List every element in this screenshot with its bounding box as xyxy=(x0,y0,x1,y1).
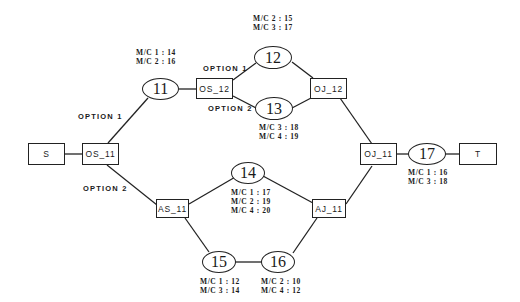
node-11-machines: M/C 1 : 14 M/C 2 : 16 xyxy=(136,48,176,66)
node-11: 11 xyxy=(142,78,179,100)
node-11-label: 11 xyxy=(153,80,168,98)
node-12-label: 12 xyxy=(265,49,281,67)
node-15-label: 15 xyxy=(211,253,227,271)
machine-time: M/C 1 : 14 xyxy=(136,48,176,57)
machine-time: M/C 1 : 12 xyxy=(200,277,240,286)
os-12-option-1-label: OPTION 1 xyxy=(203,64,248,73)
machine-time: M/C 3 : 17 xyxy=(253,23,293,32)
node-12: 12 xyxy=(254,46,292,69)
source-label: S xyxy=(43,149,49,159)
machine-time: M/C 1 : 16 xyxy=(408,168,448,177)
node-16-label: 16 xyxy=(270,253,286,271)
machine-time: M/C 4 : 12 xyxy=(261,286,301,295)
node-12-machines: M/C 2 : 15 M/C 3 : 17 xyxy=(253,14,293,32)
machine-time: M/C 3 : 18 xyxy=(408,177,448,186)
os-11-option-2-label: OPTION 2 xyxy=(83,184,128,193)
machine-time: M/C 2 : 15 xyxy=(253,14,293,23)
node-15: 15 xyxy=(202,251,236,273)
node-16-machines: M/C 2 : 10 M/C 4 : 12 xyxy=(261,277,301,295)
machine-time: M/C 3 : 18 xyxy=(259,123,299,132)
node-13: 13 xyxy=(255,97,293,120)
node-15-machines: M/C 1 : 12 M/C 3 : 14 xyxy=(200,277,240,295)
machine-time: M/C 4 : 19 xyxy=(259,132,299,141)
as-11-label: AS_11 xyxy=(158,204,187,214)
node-14-label: 14 xyxy=(240,164,256,182)
machine-time: M/C 4 : 20 xyxy=(231,206,271,215)
machine-time: M/C 3 : 14 xyxy=(200,286,240,295)
machine-time: M/C 2 : 19 xyxy=(231,197,271,206)
os-12-option-2-label: OPTION 2 xyxy=(208,104,253,113)
node-17-machines: M/C 1 : 16 M/C 3 : 18 xyxy=(408,168,448,186)
os-11-box: OS_11 xyxy=(82,143,119,165)
oj-12-box: OJ_12 xyxy=(310,78,347,99)
node-14: 14 xyxy=(231,162,265,184)
source-box: S xyxy=(28,143,65,165)
oj-11-box: OJ_11 xyxy=(360,143,397,165)
os-11-option-1-label: OPTION 1 xyxy=(78,112,123,121)
os-12-label: OS_12 xyxy=(199,84,229,94)
machine-time: M/C 1 : 17 xyxy=(231,188,271,197)
sink-label: T xyxy=(475,149,481,159)
aj-11-box: AJ_11 xyxy=(312,199,346,218)
sink-box: T xyxy=(459,143,497,165)
machine-time: M/C 2 : 10 xyxy=(261,277,301,286)
as-11-box: AS_11 xyxy=(156,199,189,218)
node-17-label: 17 xyxy=(419,145,435,163)
aj-11-label: AJ_11 xyxy=(315,204,342,214)
node-13-machines: M/C 3 : 18 M/C 4 : 19 xyxy=(259,123,299,141)
oj-11-label: OJ_11 xyxy=(364,149,392,159)
node-14-machines: M/C 1 : 17 M/C 2 : 19 M/C 4 : 20 xyxy=(231,188,271,215)
node-16: 16 xyxy=(261,251,295,273)
node-17: 17 xyxy=(408,143,446,165)
node-13-label: 13 xyxy=(266,100,282,118)
machine-time: M/C 2 : 16 xyxy=(136,57,176,66)
os-11-label: OS_11 xyxy=(86,149,116,159)
oj-12-label: OJ_12 xyxy=(314,84,343,94)
os-12-box: OS_12 xyxy=(196,78,233,99)
